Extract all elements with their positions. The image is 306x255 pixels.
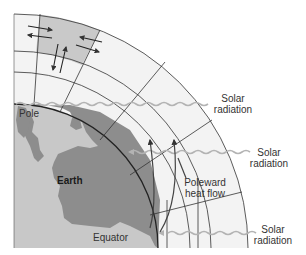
heat-flow-label-line2: heat flow: [180, 188, 230, 199]
heat-flow-label: Poleward heat flow: [180, 177, 230, 199]
equator-label: Equator: [93, 232, 128, 243]
solar-radiation-label-bottom: Solar radiation: [248, 224, 298, 246]
solar-top-line1: Solar: [208, 93, 258, 104]
solar-radiation-label-middle: Solar radiation: [244, 147, 294, 169]
heat-transport-diagram: [0, 0, 306, 255]
solar-radiation-label-top: Solar radiation: [208, 93, 258, 115]
pole-label: Pole: [19, 108, 39, 119]
solar-top-line2: radiation: [208, 104, 258, 115]
solar-bottom-line1: Solar: [248, 224, 298, 235]
solar-mid-line2: radiation: [244, 158, 294, 169]
solar-bottom-line2: radiation: [248, 235, 298, 246]
earth-label: Earth: [57, 175, 83, 186]
heat-flow-label-line1: Poleward: [180, 177, 230, 188]
solar-mid-line1: Solar: [244, 147, 294, 158]
